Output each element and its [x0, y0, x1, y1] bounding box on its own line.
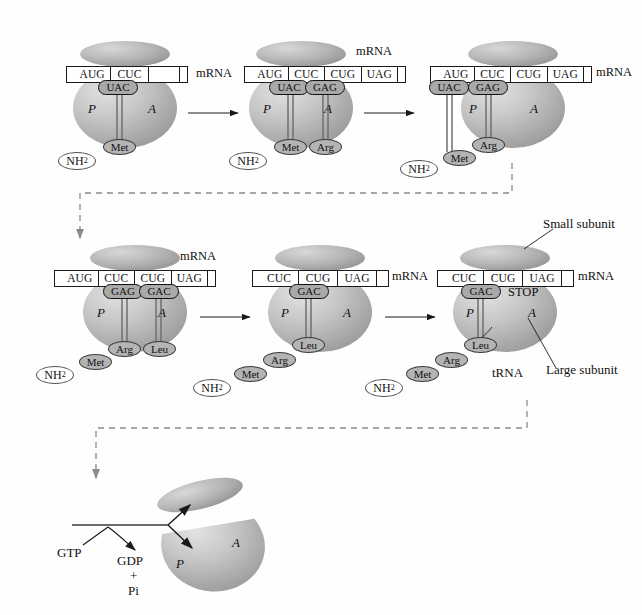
amine-label: NH	[66, 155, 83, 167]
anticodon-pill: UAC	[429, 80, 469, 95]
mrna-cap-right	[180, 67, 187, 82]
amine-subscript: 2	[426, 165, 430, 173]
flow-connector-2	[96, 400, 527, 478]
anticodon-pill: GAG	[468, 80, 508, 95]
amino-acid-oval: Met	[79, 354, 112, 370]
amino-acid-oval: Arg	[435, 352, 468, 368]
mrna-cap-left	[245, 67, 252, 82]
mrna-label: mRNA	[392, 269, 428, 284]
mrna-strip-6: CUC CUG UAG	[437, 270, 574, 287]
amine-subscript: 2	[255, 157, 259, 165]
anticodon-pill: UAC	[269, 80, 309, 95]
mrna-cap-left	[67, 67, 74, 82]
a-site-label: A	[148, 101, 156, 117]
amine-terminus: NH2	[58, 152, 96, 170]
mrna-label: mRNA	[596, 65, 632, 80]
flow-connector-1	[80, 163, 512, 238]
a-site-label: A	[343, 305, 351, 321]
amine-label: NH	[201, 382, 218, 394]
anticodon-pill: GAC	[139, 284, 179, 299]
p-site-label-dissociated: P	[176, 556, 184, 572]
amine-label: NH	[408, 163, 425, 175]
amino-acid-oval: Met	[443, 150, 476, 166]
anticodon-pill: GAG	[305, 80, 345, 95]
small-subunit-1	[80, 41, 170, 67]
amino-acid-oval: Met	[234, 366, 267, 382]
translation-diagram: AUG CUC mRNA UAC P A Met NH2 AUG CUC CUG…	[0, 0, 642, 615]
codon: UAG	[548, 67, 585, 82]
amino-acid-oval: Leu	[464, 337, 497, 353]
p-site-label: P	[88, 101, 96, 117]
amino-acid-oval: Arg	[309, 139, 342, 155]
amino-acid-oval: Leu	[292, 337, 325, 353]
p-site-label: P	[263, 101, 271, 117]
mrna-cap-right	[398, 67, 405, 82]
mrna-label: mRNA	[180, 249, 216, 264]
p-site-label: P	[466, 305, 474, 321]
pi-label: Pi	[128, 583, 139, 599]
a-site-label: A	[158, 305, 166, 321]
mrna-cap-right	[208, 271, 215, 286]
released-small-subunit	[154, 471, 246, 519]
amino-acid-oval: Arg	[108, 341, 141, 357]
small-subunit-5	[275, 245, 365, 271]
p-site-label: P	[281, 305, 289, 321]
mrna-cap-right	[584, 67, 591, 82]
amine-terminus: NH2	[229, 152, 267, 170]
trna-annotation: tRNA	[492, 365, 523, 381]
amine-subscript: 2	[84, 157, 88, 165]
mrna-cap-right	[562, 271, 569, 286]
small-subunit-4	[90, 245, 180, 271]
amine-subscript: 2	[62, 371, 66, 379]
stop-codon-label: STOP	[508, 285, 538, 300]
anticodon-pill: GAC	[289, 284, 329, 299]
mrna-cap-left	[55, 271, 62, 286]
small-subunit-6	[460, 245, 550, 271]
anticodon-pill: GAG	[103, 284, 143, 299]
released-large-subunit	[155, 506, 269, 598]
mrna-cap-right	[377, 271, 384, 286]
gtp-label: GTP	[57, 545, 82, 561]
amine-terminus: NH2	[400, 160, 438, 178]
mrna-cap-left	[438, 271, 445, 286]
amino-acid-oval: Met	[103, 139, 136, 155]
codon: UAG	[172, 271, 209, 286]
codon: UAG	[523, 271, 562, 286]
codon: CUG	[511, 67, 548, 82]
a-site-label: A	[528, 305, 536, 321]
gdp-out-arrow	[108, 527, 135, 550]
a-site-label: A	[530, 101, 538, 117]
amine-terminus: NH2	[36, 366, 74, 384]
plus-label: +	[130, 568, 137, 584]
amino-acid-oval: Met	[406, 366, 439, 382]
mrna-label: mRNA	[578, 269, 614, 284]
anticodon-pill: UAC	[98, 80, 138, 95]
a-site-label: A	[324, 101, 332, 117]
mrna-label: mRNA	[196, 66, 232, 81]
p-site-label: P	[97, 305, 105, 321]
small-subunit-3	[468, 41, 558, 67]
amine-label: NH	[237, 155, 254, 167]
amine-label: NH	[373, 382, 390, 394]
mrna-label: mRNA	[356, 44, 392, 59]
p-site-label: P	[469, 101, 477, 117]
amino-acid-oval: Met	[274, 139, 307, 155]
small-subunit-annotation: Small subunit	[543, 216, 615, 232]
codon: UAG	[362, 67, 399, 82]
codon: UAG	[338, 271, 377, 286]
codon	[149, 67, 180, 82]
small-subunit-leader	[524, 229, 553, 249]
mrna-cap-left	[253, 271, 260, 286]
amino-acid-oval: Arg	[263, 352, 296, 368]
a-site-label-dissociated: A	[232, 535, 240, 551]
gdp-label: GDP	[117, 553, 143, 569]
amine-terminus: NH2	[193, 379, 231, 397]
codon: AUG	[62, 271, 99, 286]
amine-subscript: 2	[391, 384, 395, 392]
large-subunit-annotation: Large subunit	[546, 362, 618, 378]
small-subunit-2	[256, 41, 346, 67]
amine-subscript: 2	[219, 384, 223, 392]
amino-acid-oval: Leu	[143, 341, 176, 357]
amine-terminus: NH2	[365, 379, 403, 397]
anticodon-pill: GAC	[461, 284, 501, 299]
